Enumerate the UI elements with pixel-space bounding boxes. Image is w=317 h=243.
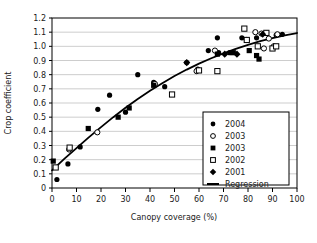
y-tick-label: 0.9 (33, 57, 46, 66)
marker-filled-circle (162, 84, 167, 89)
marker-filled-circle (78, 144, 83, 149)
marker-filled-square (86, 126, 91, 131)
legend-label: 2003 (225, 132, 245, 141)
legend-label: Regression (225, 180, 269, 189)
y-tick-label: 1.2 (33, 14, 46, 23)
x-tick-label: 20 (96, 195, 106, 204)
x-tick-label: 60 (194, 195, 204, 204)
marker-open-circle (266, 36, 271, 41)
y-axis-title: Crop coefficient (4, 72, 13, 135)
marker-open-square (53, 165, 58, 170)
y-tick-label: 0 (41, 184, 46, 193)
x-tick-label: 100 (289, 195, 304, 204)
legend-label: 2003 (225, 144, 245, 153)
marker-filled-circle (65, 161, 70, 166)
marker-filled-square (116, 115, 121, 120)
x-axis: 0102030405060708090100 (49, 188, 304, 204)
marker-filled-square (211, 146, 216, 151)
x-tick-label: 50 (169, 195, 179, 204)
marker-open-circle (261, 46, 266, 51)
legend-label: 2004 (225, 120, 245, 129)
legend-box (203, 112, 289, 185)
y-tick-label: 0.6 (33, 99, 46, 108)
y-tick-label: 1.0 (33, 42, 46, 51)
x-tick-label: 70 (218, 195, 228, 204)
y-tick-label: 0.8 (33, 71, 46, 80)
marker-filled-square (151, 83, 156, 88)
marker-filled-circle (135, 72, 140, 77)
marker-open-square (169, 92, 174, 97)
marker-filled-square (256, 56, 261, 61)
x-tick-label: 10 (71, 195, 81, 204)
y-tick-label: 0.4 (33, 127, 46, 136)
marker-open-square (244, 37, 249, 42)
x-tick-label: 90 (267, 195, 277, 204)
marker-filled-circle (215, 35, 220, 40)
x-tick-label: 40 (145, 195, 155, 204)
marker-open-square (67, 145, 72, 150)
y-tick-label: 1.1 (33, 28, 46, 37)
marker-filled-circle (95, 107, 100, 112)
marker-open-circle (253, 30, 258, 35)
marker-filled-circle (107, 93, 112, 98)
marker-filled-circle (206, 48, 211, 53)
x-tick-label: 80 (243, 195, 253, 204)
y-tick-label: 0.7 (33, 85, 46, 94)
marker-open-square (242, 26, 247, 31)
marker-filled-square (215, 52, 220, 57)
y-tick-label: 0.5 (33, 113, 46, 122)
y-tick-label: 0.3 (33, 142, 46, 151)
marker-filled-square (127, 105, 132, 110)
marker-open-square (215, 69, 220, 74)
marker-filled-square (51, 158, 56, 163)
legend-label: 2001 (225, 168, 245, 177)
marker-filled-circle (54, 177, 59, 182)
crop-coefficient-scatter-chart: 00.10.20.30.40.50.60.70.80.91.01.11.2 01… (0, 0, 317, 243)
marker-open-square (274, 44, 279, 49)
marker-open-square (255, 44, 260, 49)
marker-filled-square (247, 48, 252, 53)
marker-filled-circle (254, 35, 259, 40)
marker-open-square (211, 158, 216, 163)
x-tick-label: 0 (49, 195, 54, 204)
marker-open-square (196, 68, 201, 73)
marker-open-circle (211, 134, 216, 139)
legend: 20042003200320022001Regression (203, 112, 289, 189)
y-axis: 00.10.20.30.40.50.60.70.80.91.01.11.2 (33, 14, 52, 193)
x-axis-title: Canopy coverage (%) (131, 213, 217, 222)
y-tick-label: 0.2 (33, 156, 46, 165)
x-tick-label: 30 (120, 195, 130, 204)
marker-open-circle (95, 130, 100, 135)
legend-label: 2002 (225, 156, 245, 165)
y-tick-label: 0.1 (33, 170, 46, 179)
marker-filled-circle (211, 122, 216, 127)
marker-open-circle (275, 32, 280, 37)
